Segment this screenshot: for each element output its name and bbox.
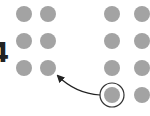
left-grid-dot: [16, 6, 32, 22]
right-grid-dot: [134, 33, 150, 49]
right-grid-dot: [134, 6, 150, 22]
right-grid-dot: [104, 33, 120, 49]
dot-transfer-diagram: 4: [0, 0, 150, 116]
right-grid-dot: [104, 87, 120, 103]
right-grid-dot: [134, 60, 150, 76]
left-grid-dot: [40, 6, 56, 22]
left-dot-grid: [16, 6, 56, 76]
left-grid-dot: [40, 33, 56, 49]
right-grid-dot: [104, 6, 120, 22]
move-arrow: [58, 76, 100, 95]
left-grid-dot: [40, 60, 56, 76]
left-grid-dot: [16, 60, 32, 76]
left-grid-dot: [16, 33, 32, 49]
right-grid-dot: [104, 60, 120, 76]
right-dot-grid: [104, 6, 150, 103]
right-grid-dot: [134, 87, 150, 103]
